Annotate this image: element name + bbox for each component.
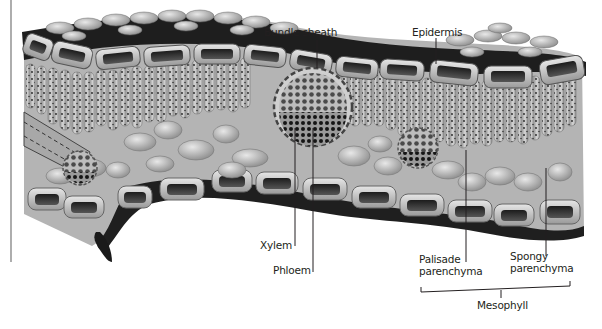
leaf-cross-section-diagram: Bundle sheath Epidermis Xylem Phloem Pal… [0, 0, 602, 329]
label-palisade-line1: Palisade [419, 253, 483, 265]
leaf-illustration [0, 0, 602, 329]
label-xylem: Xylem [260, 239, 292, 251]
label-epidermis: Epidermis [412, 26, 462, 38]
small-vascular-bundle-left [63, 151, 97, 185]
label-spongy-line2: parenchyma [510, 262, 574, 274]
label-spongy-line1: Spongy [510, 250, 574, 262]
label-spongy-parenchyma: Spongy parenchyma [510, 250, 574, 274]
label-phloem: Phloem [273, 264, 311, 276]
label-palisade-line2: parenchyma [419, 265, 483, 277]
label-mesophyll: Mesophyll [477, 299, 528, 311]
mesophyll-bracket [421, 281, 570, 292]
label-bundle-sheath: Bundle sheath [264, 26, 337, 38]
label-palisade-parenchyma: Palisade parenchyma [419, 253, 483, 277]
small-vascular-bundle-right [398, 128, 438, 168]
